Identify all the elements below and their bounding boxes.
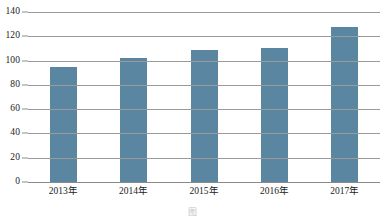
- y-tick-label-20: 20: [10, 153, 20, 163]
- x-tick-label-0: 2013年: [49, 187, 78, 197]
- x-axis: 2013年2014年2015年2016年2017年: [28, 184, 380, 202]
- plot-area: [28, 12, 380, 182]
- figure-caption: 图: [0, 207, 385, 217]
- bar-2015年: [191, 50, 218, 182]
- gridline-80: [28, 85, 380, 86]
- y-axis: 020406080100120140: [0, 12, 28, 182]
- gridline-120: [28, 36, 380, 37]
- gridline-20: [28, 158, 380, 159]
- gridline-0: [28, 182, 380, 183]
- y-tick-label-0: 0: [15, 177, 20, 187]
- bars-layer: [28, 12, 380, 182]
- gridline-40: [28, 133, 380, 134]
- x-tick-label-1: 2014年: [119, 187, 148, 197]
- y-tick-label-140: 140: [5, 7, 20, 17]
- y-tick-label-60: 60: [10, 104, 20, 114]
- gridline-100: [28, 61, 380, 62]
- bar-2016年: [261, 48, 288, 182]
- x-tick-label-2: 2015年: [190, 187, 219, 197]
- bar-2014年: [120, 58, 147, 182]
- x-tick-label-3: 2016年: [260, 187, 289, 197]
- gridline-140: [28, 12, 380, 13]
- gridline-60: [28, 109, 380, 110]
- y-tick-label-120: 120: [5, 32, 20, 42]
- y-tick-label-40: 40: [10, 129, 20, 139]
- y-tick-label-80: 80: [10, 80, 20, 90]
- x-tick-label-4: 2017年: [330, 187, 359, 197]
- bar-chart-figure: 020406080100120140 2013年2014年2015年2016年2…: [0, 0, 385, 217]
- y-tick-label-100: 100: [5, 56, 20, 66]
